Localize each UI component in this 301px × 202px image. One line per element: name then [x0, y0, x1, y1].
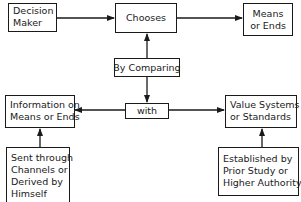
node-text: By Comparing — [113, 62, 180, 74]
node-chooses: Chooses — [115, 3, 177, 33]
node-text: Sent through — [11, 152, 65, 164]
node-with: with — [125, 103, 169, 119]
node-decision-maker: Decision Maker — [8, 3, 57, 32]
node-information: Information on Means or Ends — [5, 95, 75, 128]
node-text: Prior Study or — [223, 165, 294, 177]
node-text: or Standards — [230, 111, 292, 123]
node-text: Derived by — [11, 176, 65, 188]
node-text: Himself — [11, 188, 65, 200]
node-value-systems: Value Systems or Standards — [225, 95, 297, 128]
node-text: Value Systems — [230, 99, 292, 111]
node-text: Means or Ends — [10, 111, 70, 123]
node-sent-through: Sent through Channels or Derived by Hims… — [6, 147, 70, 202]
node-text: Established by — [223, 153, 294, 165]
node-text: Means — [248, 8, 288, 20]
node-text: Maker — [13, 17, 52, 29]
node-text: Information on — [10, 99, 70, 111]
node-text: Decision — [13, 5, 52, 17]
node-means-or-ends: Means or Ends — [243, 3, 293, 36]
node-text: with — [137, 105, 157, 117]
node-by-comparing: By Comparing — [114, 58, 180, 77]
node-text: Channels or — [11, 164, 65, 176]
node-text: Higher Authority — [223, 177, 294, 189]
node-text: or Ends — [248, 20, 288, 32]
node-established-by: Established by Prior Study or Higher Aut… — [218, 147, 299, 196]
node-text: Chooses — [126, 12, 166, 24]
